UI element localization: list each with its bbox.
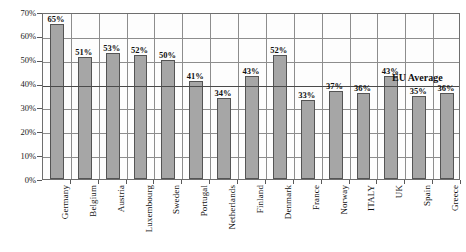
- bar: [329, 91, 343, 179]
- x-axis-tick-mark: [153, 180, 154, 184]
- y-axis-tick-mark: [37, 37, 42, 38]
- y-axis-tick-label: 20%: [20, 128, 36, 137]
- y-axis-tick-mark: [37, 61, 42, 62]
- bar: [78, 57, 92, 179]
- bar-value-label: 37%: [321, 81, 349, 91]
- y-axis-tick-mark: [37, 85, 42, 86]
- x-gridline: [377, 14, 378, 179]
- x-gridline: [266, 14, 267, 179]
- x-axis-category-label: Finland: [255, 185, 265, 213]
- x-gridline: [99, 14, 100, 179]
- y-axis-tick-mark: [37, 108, 42, 109]
- x-gridline: [127, 14, 128, 179]
- y-axis-tick-label: 0%: [25, 176, 36, 185]
- x-axis-tick-mark: [460, 180, 461, 184]
- bar-value-label: 53%: [98, 43, 126, 53]
- x-axis-tick-mark: [181, 180, 182, 184]
- x-axis-category-label: Austria: [116, 185, 126, 212]
- y-gridline: [43, 38, 459, 39]
- y-axis-tick-label: 40%: [20, 80, 36, 89]
- y-axis-tick-mark: [37, 13, 42, 14]
- x-axis-category-label: Norway: [339, 185, 349, 215]
- bar-value-label: 65%: [42, 14, 70, 24]
- bar: [245, 76, 259, 179]
- x-axis-category-label: Denmark: [283, 185, 293, 219]
- bar: [384, 76, 398, 179]
- x-gridline: [405, 14, 406, 179]
- x-axis-tick-mark: [265, 180, 266, 184]
- y-axis: 0%10%20%30%40%50%60%70%: [0, 0, 36, 252]
- x-axis-tick-mark: [349, 180, 350, 184]
- x-axis-category-label: Belgium: [88, 185, 98, 217]
- x-axis-category-label: UK: [394, 185, 404, 198]
- x-axis-category-label: Greece: [450, 185, 460, 211]
- bar: [440, 93, 454, 179]
- bar-value-label: 50%: [153, 50, 181, 60]
- x-axis-category-label: Luxembourg: [144, 185, 154, 232]
- y-axis-tick-label: 60%: [20, 32, 36, 41]
- bar: [134, 55, 148, 179]
- x-gridline: [71, 14, 72, 179]
- eu-average-reference-line: [43, 86, 459, 87]
- bar-value-label: 33%: [293, 90, 321, 100]
- y-axis-tick-label: 70%: [20, 9, 36, 18]
- plot-area: [42, 13, 460, 180]
- x-gridline: [350, 14, 351, 179]
- x-axis-tick-mark: [404, 180, 405, 184]
- bar-value-label: 52%: [126, 45, 154, 55]
- x-axis-tick-mark: [293, 180, 294, 184]
- bar-value-label: 36%: [432, 83, 460, 93]
- x-axis-tick-mark: [237, 180, 238, 184]
- bar: [273, 55, 287, 179]
- x-axis-category-label: ITALY: [366, 185, 376, 211]
- y-axis-tick-mark: [37, 156, 42, 157]
- x-axis-tick-mark: [70, 180, 71, 184]
- x-gridline: [154, 14, 155, 179]
- bar-value-label: 34%: [209, 88, 237, 98]
- y-axis-tick-label: 10%: [20, 152, 36, 161]
- bar: [217, 98, 231, 179]
- bar-value-label: 41%: [181, 71, 209, 81]
- x-gridline: [182, 14, 183, 179]
- x-axis-tick-mark: [209, 180, 210, 184]
- y-axis-tick-label: 30%: [20, 104, 36, 113]
- x-axis-tick-mark: [432, 180, 433, 184]
- bar-value-label: 35%: [404, 86, 432, 96]
- bar-value-label: 36%: [349, 83, 377, 93]
- bar: [189, 81, 203, 179]
- bar: [161, 60, 175, 179]
- eu-average-annotation-label: EU Average: [392, 72, 443, 83]
- x-axis-tick-mark: [376, 180, 377, 184]
- x-gridline: [238, 14, 239, 179]
- x-axis-tick-mark: [126, 180, 127, 184]
- x-axis-category-label: Netherlands: [227, 185, 237, 230]
- bar-value-label: 52%: [265, 45, 293, 55]
- x-axis-tick-mark: [321, 180, 322, 184]
- x-axis-category-label: Sweden: [171, 185, 181, 214]
- y-axis-tick-label: 50%: [20, 56, 36, 65]
- bar: [50, 24, 64, 179]
- bar-chart: 0%10%20%30%40%50%60%70% EU Average 65%Ge…: [0, 0, 466, 252]
- bar: [357, 93, 371, 179]
- x-gridline: [433, 14, 434, 179]
- x-axis-category-label: Spain: [422, 185, 432, 206]
- bar-value-label: 43%: [237, 66, 265, 76]
- bar-value-label: 51%: [70, 47, 98, 57]
- x-axis-category-label: Portugal: [199, 185, 209, 216]
- bar: [301, 100, 315, 179]
- y-axis-tick-mark: [37, 132, 42, 133]
- bar: [412, 96, 426, 180]
- bar: [106, 53, 120, 179]
- x-gridline: [322, 14, 323, 179]
- x-axis-tick-mark: [98, 180, 99, 184]
- x-axis-category-label: Germany: [60, 185, 70, 219]
- x-axis-category-label: France: [311, 185, 321, 210]
- y-axis-tick-mark: [37, 180, 42, 181]
